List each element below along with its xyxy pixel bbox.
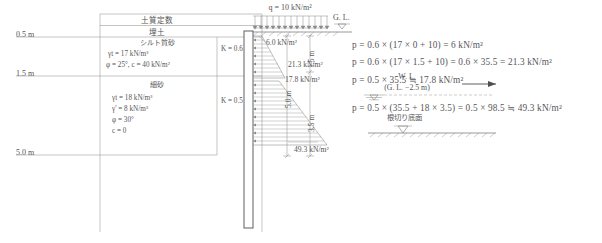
surcharge-load [253,16,330,30]
soil-layer-3-param-1: γ' = 8 kN/m³ [112,106,148,113]
excavation-bottom-label: 根切り底面 [387,114,422,121]
depth-mark-1: 1.5 m [16,70,34,78]
figure-linework [0,0,602,243]
soil-layer-3-param-3: c = 0 [112,128,126,135]
equation-1: p = 0.6 × (17 × 1.5 + 10) = 0.6 × 35.5 =… [352,57,552,67]
soil-layer-3-param-0: γt = 18 kN/m³ [112,95,152,102]
pressure-label-upper-bottom: 21.3 kN/m² [288,61,323,69]
water-level-sublabel: (G. L. −2.5 m) [384,84,430,92]
depth-mark-0: 0.5 m [16,31,34,39]
retaining-wall [244,31,253,228]
depth-mark-2: 5.0 m [16,149,34,157]
equation-2: p = 0.5 × 35.5 ≒ 17.8 kN/m² [352,74,463,85]
depth-leader-lines [16,37,100,155]
earth-pressure-figure: 土質定数 埋土 シルト質砂 γt = 17 kN/m³ φ = 25°, c =… [0,0,602,243]
pressure-label-bottom: 49.3 kN/m² [294,146,329,154]
excavation-bottom-marker [368,126,496,137]
soil-layer-2-param-1: φ = 25°, c = 40 kN/m² [106,62,170,69]
pressure-label-top: 6.0 kN/m² [266,39,297,47]
soil-table-header: 土質定数 [141,17,173,25]
equation-3: p = 0.5 × (35.5 + 18 × 3.5) = 0.5 × 98.5… [352,102,562,113]
dimension-total-label: 5.0 m [284,91,293,108]
dimension-lower-label: 3.5 m [307,115,316,132]
soil-layer-3-k-value: K = 0.5 [221,98,243,105]
pressure-label-lower-top: 17.8 kN/m² [285,76,320,84]
surcharge-label: q = 10 kN/m² [268,4,311,12]
soil-layer-3-name: 細砂 [150,82,164,89]
equation-0: p = 0.6 × (17 × 0 + 10) = 6 kN/m² [352,40,483,50]
soil-layer-2-name: シルト質砂 [140,40,175,47]
soil-layer-3-param-2: φ = 30° [112,117,134,124]
soil-layer-2-k-value: K = 0.6 [221,46,243,53]
soil-layer-2-param-0: γt = 17 kN/m³ [108,51,148,58]
soil-layer-1-name: 埋土 [149,29,165,37]
ground-level-label: G. L. [333,14,350,22]
